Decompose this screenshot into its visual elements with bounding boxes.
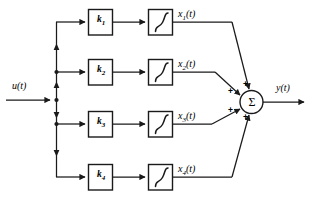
state-label-2: x2(t) [178, 58, 195, 72]
sigma-icon: Σ [244, 95, 260, 109]
label-layer: u(t) y(t) k1 k2 k3 k4 x1(t) x2(t) x3(t) … [0, 0, 315, 203]
state-label-2-arg: (t) [186, 58, 195, 69]
gain-label-3: k3 [92, 116, 110, 129]
input-label: u(t) [12, 80, 26, 91]
gain-label-1: k1 [92, 14, 110, 27]
gain-label-4-index: 4 [102, 174, 106, 182]
gain-label-1-index: 1 [102, 19, 106, 27]
state-label-4: x4(t) [178, 163, 195, 177]
state-label-1-arg: (t) [186, 8, 195, 19]
state-label-4-arg: (t) [186, 163, 195, 174]
gain-label-2: k2 [92, 64, 110, 77]
state-label-1: x1(t) [178, 8, 195, 22]
plus-sign-bottom: + [243, 112, 248, 122]
plus-sign-top: + [243, 79, 248, 89]
gain-label-3-index: 3 [102, 121, 106, 129]
block-diagram: u(t) y(t) k1 k2 k3 k4 x1(t) x2(t) x3(t) … [0, 0, 315, 203]
plus-sign-upper-left: + [228, 86, 233, 96]
output-label: y(t) [276, 82, 290, 93]
state-label-3: x3(t) [178, 110, 195, 124]
gain-label-4: k4 [92, 169, 110, 182]
state-label-3-arg: (t) [186, 110, 195, 121]
gain-label-2-index: 2 [102, 69, 106, 77]
plus-sign-lower-left: + [228, 105, 233, 115]
